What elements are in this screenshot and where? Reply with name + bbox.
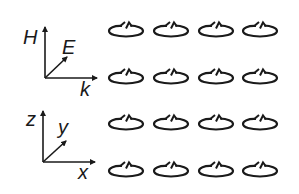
e-axis-arrow: [45, 57, 67, 78]
z-label: z: [26, 109, 36, 129]
k-label: k: [80, 79, 90, 99]
x-label: x: [78, 162, 88, 182]
srr-array: [109, 22, 277, 177]
h-label: H: [23, 27, 37, 47]
xyz-axes: [43, 111, 95, 162]
e-label: E: [62, 37, 75, 57]
y-label: y: [58, 117, 68, 137]
diagram-canvas: [0, 0, 299, 194]
y-axis-arrow: [43, 141, 66, 162]
